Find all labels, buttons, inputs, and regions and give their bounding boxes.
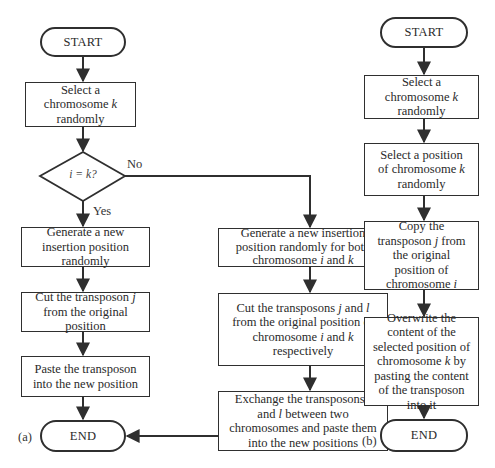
select-position-box: Select a position of chromosome k random… xyxy=(364,143,479,196)
cut-transposon-box: Cut the transposon j from the original p… xyxy=(21,292,150,332)
start-terminal-b: START xyxy=(380,17,468,48)
panel-b-label: (b) xyxy=(362,434,377,449)
decision-label: i = k? xyxy=(58,168,108,180)
no-label: No xyxy=(127,157,142,172)
select-chromosome-box-b: Select a chromosome k randomly xyxy=(364,75,479,119)
paste-transposon-box: Paste the transposon into the new positi… xyxy=(21,356,150,397)
overwrite-content-box: Overwrite the content of the selected po… xyxy=(364,317,479,406)
yes-label: Yes xyxy=(93,204,111,219)
copy-transposon-box: Copy the transposon j from the original … xyxy=(364,221,479,290)
generate-position-box: Generate a new insertion position random… xyxy=(21,227,150,267)
cut-transposons-box: Cut the transposons j and l from the ori… xyxy=(218,293,388,366)
end-terminal-a: END xyxy=(40,420,126,452)
start-terminal-a: START xyxy=(40,27,126,57)
generate-both-positions-box: Generate a new insertion position random… xyxy=(218,228,388,267)
select-chromosome-box-a: Select a chromosome k randomly xyxy=(25,82,136,127)
panel-a-label: (a) xyxy=(18,430,32,445)
end-terminal-b: END xyxy=(380,419,468,452)
